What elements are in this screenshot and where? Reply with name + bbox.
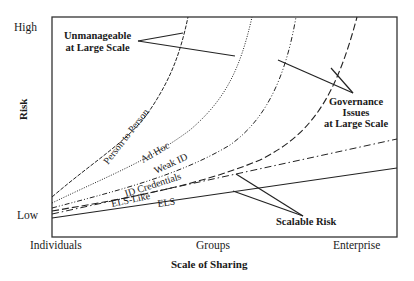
y-axis-label: Risk	[18, 99, 29, 120]
annotation-governance-line2: Issues	[321, 107, 391, 118]
scalable-risk-pointers	[233, 174, 303, 216]
annotation-governance-line3: at Large Scale	[321, 118, 391, 129]
label-els: ELS	[157, 196, 176, 209]
annotation-unmanageable-line2: at Large Scale	[64, 42, 131, 54]
curve-els	[52, 168, 397, 218]
curve-els-like	[52, 139, 397, 214]
annotation-governance: Governance Issues at Large Scale	[321, 96, 391, 129]
annotation-unmanageable: Unmanageable at Large Scale	[64, 30, 131, 54]
x-tick-individuals: Individuals	[30, 240, 82, 252]
annotation-unmanageable-line1: Unmanageable	[64, 30, 131, 42]
unmanageable-pointers	[138, 33, 235, 56]
x-tick-groups: Groups	[196, 240, 230, 252]
annotation-governance-line1: Governance	[321, 96, 391, 107]
x-tick-enterprise: Enterprise	[333, 240, 380, 252]
annotation-scalable-risk: Scalable Risk	[276, 217, 336, 228]
x-axis-label: Scale of Sharing	[171, 259, 247, 270]
y-tick-low: Low	[17, 210, 38, 222]
y-tick-high: High	[14, 22, 37, 34]
